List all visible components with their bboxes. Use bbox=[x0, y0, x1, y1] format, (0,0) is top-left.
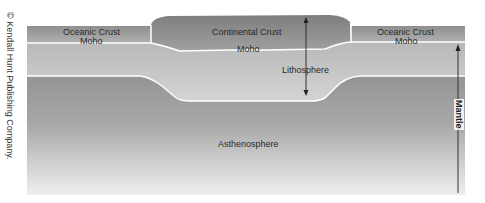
label-moho-center: Moho bbox=[237, 44, 260, 54]
label-continental-crust: Continental Crust bbox=[212, 27, 282, 37]
copyright-text: © Kendall Hunt Publishing Company. bbox=[5, 12, 15, 160]
copyright-credit: © Kendall Hunt Publishing Company. bbox=[3, 12, 15, 192]
label-lithosphere: Lithosphere bbox=[282, 65, 329, 75]
label-moho-left: Moho bbox=[80, 36, 103, 46]
label-moho-right: Moho bbox=[395, 36, 418, 46]
lithosphere-cross-section-diagram: © Kendall Hunt Publishing Company. Ocean… bbox=[0, 0, 485, 203]
label-mantle: Mantle bbox=[454, 99, 464, 130]
label-asthenosphere: Asthenosphere bbox=[218, 139, 279, 149]
